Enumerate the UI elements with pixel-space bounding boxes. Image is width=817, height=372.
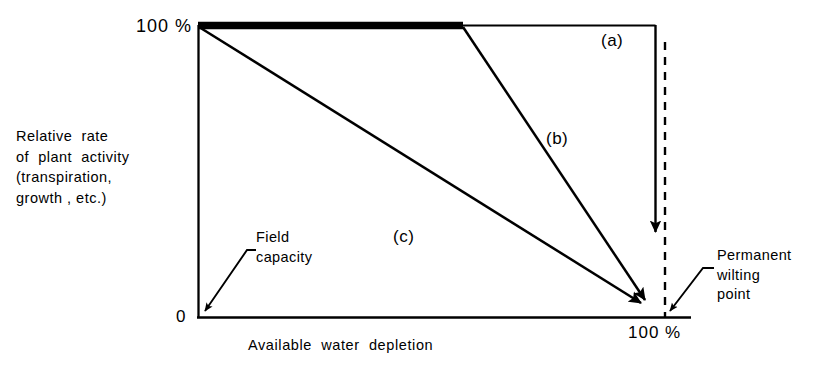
curve-label-b: (b) xyxy=(546,128,568,150)
wilting-point-leader-line xyxy=(670,268,714,311)
y-axis-tick-label-top: 100 % xyxy=(104,15,192,38)
figure-root: 100 % 0 100 % Relative rate of plant act… xyxy=(0,0,817,372)
x-axis-tick-label-right: 100 % xyxy=(628,322,681,344)
annotation-field-capacity: Field capacity xyxy=(256,228,312,267)
y-axis-title: Relative rate of plant activity (transpi… xyxy=(16,126,129,208)
field-capacity-leader-line xyxy=(205,250,256,311)
origin-tick-label: 0 xyxy=(176,306,186,328)
curve-b-decline xyxy=(463,27,645,300)
x-axis-title: Available water depletion xyxy=(248,336,433,355)
axes-group xyxy=(197,25,691,318)
curve-label-c: (c) xyxy=(393,226,414,248)
annotation-permanent-wilting-point: Permanent wilting point xyxy=(717,246,792,305)
curve-label-a: (a) xyxy=(601,30,623,52)
